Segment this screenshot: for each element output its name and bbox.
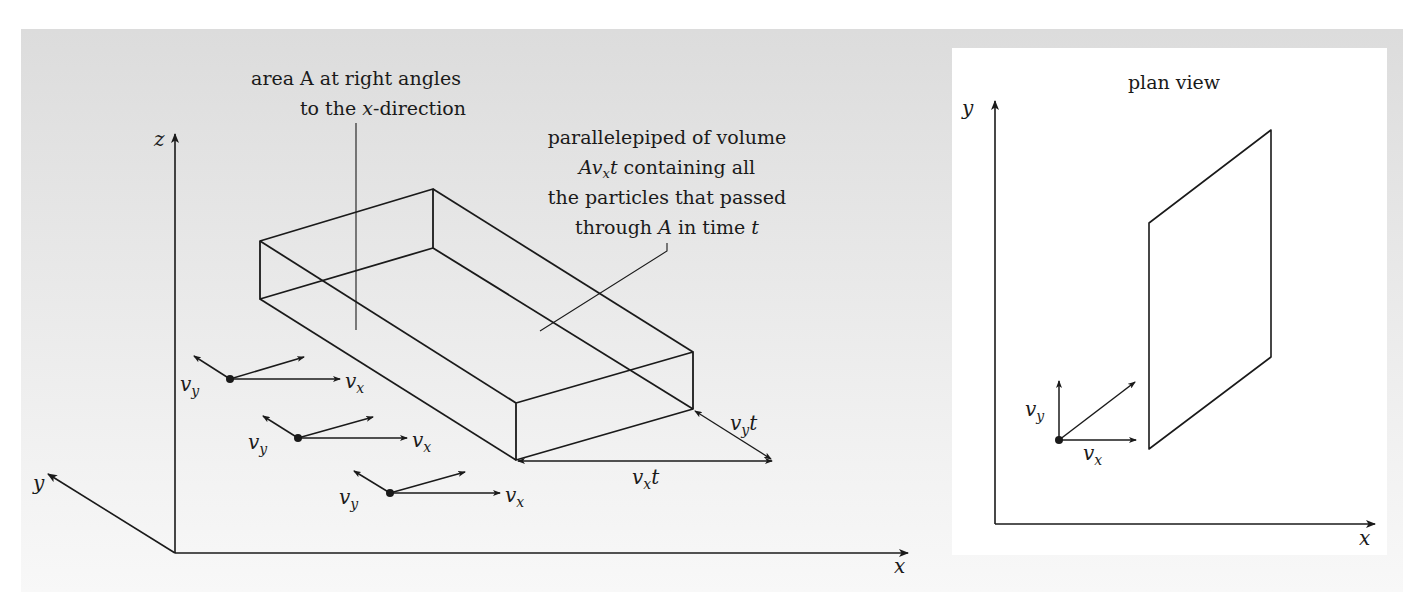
volume-leader-line xyxy=(540,243,667,331)
z-axis-label: z xyxy=(153,127,165,151)
volume-annotation-line1: parallelepiped of volume xyxy=(548,126,787,148)
x-axis-label: x xyxy=(894,554,905,578)
particle-2 xyxy=(263,416,407,442)
volume-annotation-line3: the particles that passed xyxy=(548,186,786,208)
particle-dot xyxy=(386,489,394,497)
particle-1-vy-label: vy xyxy=(180,372,200,399)
plan-particle xyxy=(1055,381,1136,444)
plan-parallelepiped xyxy=(1149,130,1271,449)
plan-y-axis-label: y xyxy=(961,96,974,120)
area-annotation-line1: area A at right angles xyxy=(251,67,461,89)
plan-vx-label: vx xyxy=(1083,441,1102,468)
plan-x-axis-label: x xyxy=(1359,526,1370,550)
volume-annotation-line4: through A in time t xyxy=(575,216,759,238)
plan-view-title: plan view xyxy=(1128,71,1221,93)
volume-annotation-line2: Avxt containing all xyxy=(577,156,755,181)
particle-dot xyxy=(226,375,234,383)
particle-3-vx-label: vx xyxy=(505,483,524,510)
particle-3-vy-label: vy xyxy=(339,485,359,512)
plan-vy-label: vy xyxy=(1025,397,1045,424)
plan-axes xyxy=(995,101,1375,524)
diagram-canvas: z x y vyt vxt area A at right angles to … xyxy=(0,0,1428,600)
particle-dot xyxy=(294,434,302,442)
y-axis xyxy=(48,474,175,553)
area-a-face xyxy=(260,189,433,299)
particle-dot xyxy=(1055,436,1063,444)
particle-2-vx-label: vx xyxy=(412,428,431,455)
vxt-label: vxt xyxy=(632,465,660,492)
y-axis-label: y xyxy=(32,471,45,495)
particle-1-vx-label: vx xyxy=(345,369,364,396)
area-annotation-line2: to the x-direction xyxy=(300,97,466,119)
particle-3 xyxy=(354,471,500,497)
vyt-label: vyt xyxy=(730,411,758,438)
particle-2-vy-label: vy xyxy=(248,430,268,457)
particle-1 xyxy=(194,356,340,383)
